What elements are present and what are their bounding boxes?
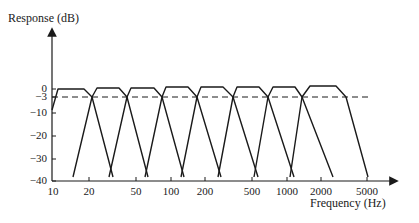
x-tick-label: 2000: [310, 186, 332, 197]
y-tick-label: −3: [17, 91, 47, 102]
x-tick-label: 5000: [356, 186, 378, 197]
x-tick-label: 20: [84, 186, 95, 197]
y-tick-label: −40: [17, 175, 47, 186]
filter-curves: [52, 86, 368, 177]
filter-curve: [52, 89, 113, 177]
x-axis-title: Frequency (Hz): [310, 197, 386, 209]
x-tick-label: 1000: [276, 186, 298, 197]
filter-curve: [73, 88, 148, 177]
filter-curve: [290, 86, 368, 177]
x-tick-label: 500: [244, 186, 261, 197]
filter-curve: [109, 88, 184, 177]
x-tick-label: 100: [163, 186, 180, 197]
y-tick-label: −30: [17, 153, 47, 164]
axes: [52, 32, 394, 181]
y-axis-title: Response (dB): [8, 12, 79, 24]
x-tick-label: 10: [48, 186, 59, 197]
y-tick-label: −20: [17, 130, 47, 141]
filter-curve: [181, 87, 258, 177]
ticks: [52, 89, 367, 181]
y-tick-label: −10: [17, 107, 47, 118]
x-tick-label: 50: [131, 186, 142, 197]
x-tick-label: 200: [197, 186, 214, 197]
filter-curve: [254, 87, 333, 177]
